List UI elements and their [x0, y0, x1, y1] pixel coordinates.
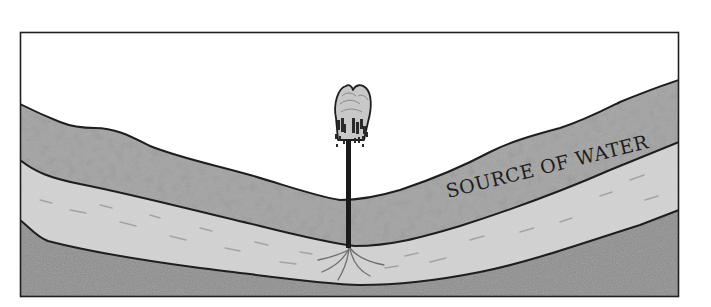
well-pipe: [346, 138, 351, 248]
fountain: [335, 85, 371, 147]
cross-section-svg: SOURCE OF WATER: [0, 0, 711, 307]
diagram-canvas: SOURCE OF WATER: [0, 0, 711, 307]
